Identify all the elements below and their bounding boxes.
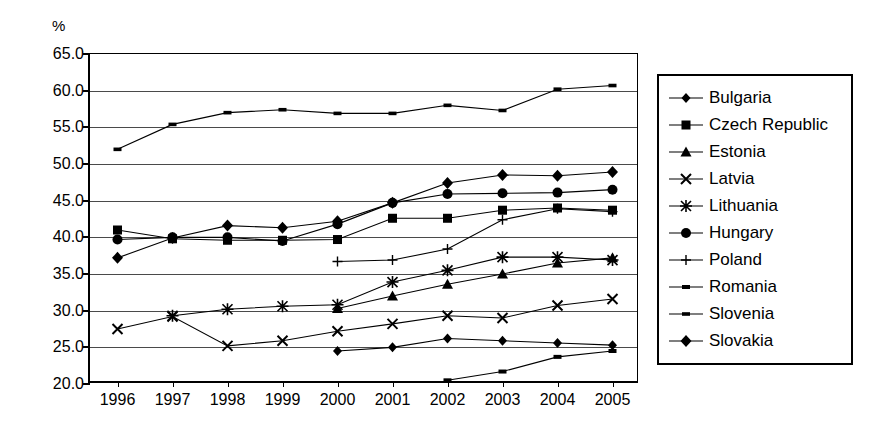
y-axis-tick-label: 25.0 xyxy=(53,338,84,356)
legend-item-lithuania[interactable]: Lithuania xyxy=(667,192,851,219)
x-axis-tick-label: 1996 xyxy=(100,391,136,409)
x-cross-icon xyxy=(667,170,705,188)
x-axis-tick-label: 2003 xyxy=(485,391,521,409)
legend-item-label: Bulgaria xyxy=(705,89,771,107)
x-axis-tick-label: 2005 xyxy=(595,391,631,409)
legend-item-slovenia[interactable]: Slovenia xyxy=(667,300,851,327)
square-icon xyxy=(667,116,705,134)
data-point-bulgaria xyxy=(608,340,617,350)
plus-bar-icon xyxy=(667,251,705,269)
data-point-slovakia xyxy=(222,220,233,232)
x-axis-tick-label: 1999 xyxy=(265,391,301,409)
data-point-lithuania xyxy=(607,254,619,266)
data-point-latvia xyxy=(113,324,123,334)
y-axis-tick-label: 45.0 xyxy=(53,192,84,210)
data-point-bulgaria xyxy=(498,336,507,346)
legend-item-poland[interactable]: Poland xyxy=(667,246,851,273)
data-point-czech-republic xyxy=(443,214,452,223)
x-axis-tick-label: 2004 xyxy=(540,391,576,409)
legend-item-romania[interactable]: Romania xyxy=(667,273,851,300)
legend-marker xyxy=(681,228,691,238)
data-point-lithuania xyxy=(552,251,564,263)
data-point-slovakia xyxy=(442,177,453,189)
y-axis-tick-mark xyxy=(83,273,90,275)
x-axis-tick-label: 1998 xyxy=(210,391,246,409)
y-axis-tick-label: 30.0 xyxy=(53,302,84,320)
y-axis-tick-mark xyxy=(83,236,90,238)
data-point-slovenia xyxy=(169,123,177,127)
x-axis-tick-label: 2001 xyxy=(375,391,411,409)
y-axis-tick-mark xyxy=(83,383,90,385)
legend-marker xyxy=(682,312,690,316)
data-point-czech-republic xyxy=(113,226,122,235)
legend-marker xyxy=(682,93,691,103)
legend-marker xyxy=(681,255,691,265)
data-point-slovenia xyxy=(389,112,397,116)
series-line-slovenia xyxy=(118,86,613,150)
data-point-bulgaria xyxy=(553,338,562,348)
data-point-romania xyxy=(609,349,617,353)
legend-item-label: Romania xyxy=(705,278,777,296)
series-line-latvia xyxy=(118,299,613,346)
circle-icon xyxy=(667,224,705,242)
series-line-slovakia xyxy=(118,172,613,258)
x-axis-tick-label: 1997 xyxy=(155,391,191,409)
data-point-romania xyxy=(499,370,507,374)
data-point-lithuania xyxy=(167,310,179,322)
legend-item-label: Hungary xyxy=(705,224,773,242)
series-line-bulgaria xyxy=(338,339,613,351)
data-point-slovakia xyxy=(112,252,123,264)
legend-item-label: Latvia xyxy=(705,170,754,188)
y-axis-tick-label: 60.0 xyxy=(53,82,84,100)
data-point-poland xyxy=(388,255,398,265)
data-point-hungary xyxy=(498,188,508,198)
legend-item-latvia[interactable]: Latvia xyxy=(667,165,851,192)
legend-item-label: Czech Republic xyxy=(705,116,828,134)
legend-marker xyxy=(682,120,691,129)
data-point-hungary xyxy=(553,188,563,198)
diamond-small-icon xyxy=(667,89,705,107)
series-line-estonia xyxy=(338,258,613,309)
legend-item-hungary[interactable]: Hungary xyxy=(667,219,851,246)
data-point-lithuania xyxy=(277,300,289,312)
data-point-bulgaria xyxy=(333,346,342,356)
data-point-slovakia xyxy=(387,197,398,209)
y-axis-tick-mark xyxy=(83,90,90,92)
series-line-poland xyxy=(338,209,613,262)
data-point-hungary xyxy=(443,189,453,199)
legend-item-estonia[interactable]: Estonia xyxy=(667,138,851,165)
data-point-slovenia xyxy=(224,111,232,115)
y-axis-tick-label: 65.0 xyxy=(53,45,84,63)
legend-item-bulgaria[interactable]: Bulgaria xyxy=(667,84,851,111)
data-point-slovakia xyxy=(497,169,508,181)
data-point-lithuania xyxy=(332,299,344,311)
legend-item-slovakia[interactable]: Slovakia xyxy=(667,327,851,354)
diamond-icon xyxy=(667,332,705,350)
y-axis-tick-mark xyxy=(83,310,90,312)
data-point-czech-republic xyxy=(498,206,507,215)
data-point-slovenia xyxy=(499,109,507,113)
data-point-lithuania xyxy=(387,276,399,288)
data-point-hungary xyxy=(113,235,123,245)
data-point-bulgaria xyxy=(443,334,452,344)
data-point-lithuania xyxy=(497,251,509,263)
legend-item-label: Lithuania xyxy=(705,197,778,215)
legend-item-label: Estonia xyxy=(705,143,766,161)
asterisk-icon xyxy=(667,197,705,215)
y-axis-tick-mark xyxy=(83,53,90,55)
y-axis-tick-mark xyxy=(83,126,90,128)
data-point-slovenia xyxy=(609,84,617,88)
data-point-czech-republic xyxy=(388,214,397,223)
series-layer xyxy=(90,54,640,384)
y-axis-unit-label: % xyxy=(52,18,65,33)
y-axis-tick-label: 55.0 xyxy=(53,118,84,136)
data-point-slovakia xyxy=(607,166,618,178)
y-axis-tick-label: 50.0 xyxy=(53,155,84,173)
legend-marker xyxy=(680,200,692,212)
legend-item-czech-republic[interactable]: Czech Republic xyxy=(667,111,851,138)
legend-item-label: Slovenia xyxy=(705,305,774,323)
data-point-hungary xyxy=(608,185,618,195)
data-point-poland xyxy=(498,215,508,225)
y-axis-tick-label: 35.0 xyxy=(53,265,84,283)
data-point-slovenia xyxy=(114,148,122,152)
